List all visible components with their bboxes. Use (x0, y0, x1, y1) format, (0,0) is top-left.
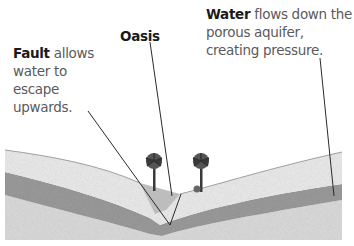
oasis-label: Oasis (120, 27, 160, 45)
palm-tree-icon (146, 153, 162, 191)
fault-label-bold: Fault (13, 45, 50, 61)
oasis-label-bold: Oasis (120, 28, 160, 44)
fault-label: Fault allows water to escape upwards. (13, 44, 103, 116)
water-label-bold: Water (206, 6, 250, 22)
water-label: Water flows down the porous aquifer, cre… (206, 5, 354, 59)
